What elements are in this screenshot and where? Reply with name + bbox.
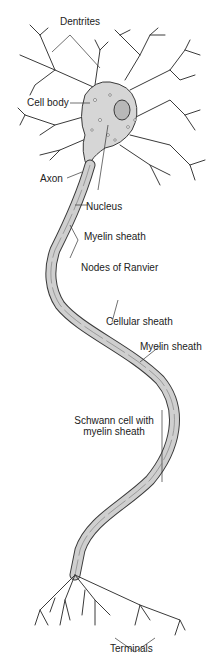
label-terminals: Terminals bbox=[110, 643, 153, 654]
label-nodes-of-ranvier: Nodes of Ranvier bbox=[81, 262, 158, 273]
label-myelin-sheath-upper: Myelin sheath bbox=[84, 231, 146, 242]
label-cellular-sheath: Cellular sheath bbox=[106, 316, 173, 327]
axon-terminals bbox=[35, 575, 185, 635]
label-myelin-sheath-lower: Myelin sheath bbox=[140, 341, 202, 352]
label-cell-body: Cell body bbox=[27, 97, 69, 108]
label-axon: Axon bbox=[40, 173, 63, 184]
neuron-diagram: Dentrites Cell body Axon Nucleus Myelin … bbox=[0, 0, 212, 664]
label-dentrites: Dentrites bbox=[60, 16, 100, 27]
nucleus-shape bbox=[114, 100, 130, 120]
label-schwann-cell-line1: Schwann cell with bbox=[72, 415, 156, 426]
label-nucleus: Nucleus bbox=[86, 201, 122, 212]
label-schwann-cell: Schwann cell with myelin sheath bbox=[72, 415, 156, 437]
label-schwann-cell-line2: myelin sheath bbox=[72, 426, 156, 437]
